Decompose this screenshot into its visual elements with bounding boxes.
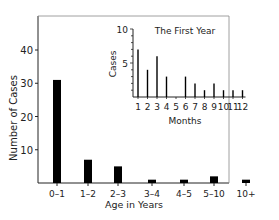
inset-y-tick-label: 10 [117,25,129,35]
main-bar [114,166,122,183]
main-x-tick-label: 3–4 [144,189,160,199]
main-x-tick-label: 1–2 [80,189,96,199]
inset-x-axis-label: Months [169,116,202,126]
chart-canvas: 102030400–11–22–33–44–55–1010+Age in Yea… [0,0,279,220]
inset-x-tick-label: 7 [192,102,198,112]
inset-x-tick-label: 8 [202,102,208,112]
inset-x-tick-label: 4 [164,102,170,112]
main-bar [180,180,188,183]
inset-x-tick-label: 2 [145,102,151,112]
inset-x-tick-label: 12 [237,102,248,112]
main-y-tick-label: 10 [20,145,33,156]
main-x-tick-label: 10+ [237,189,256,199]
inset-x-tick-label: 9 [211,102,217,112]
inset-x-tick-label: 5 [173,102,179,112]
main-y-tick-label: 20 [20,112,33,123]
inset-y-tick-label: 5 [122,59,128,69]
main-y-axis-label: Number of Cases [8,75,19,161]
inset-y-axis-label: Cases [108,50,118,77]
inset-x-tick-label: 6 [183,102,189,112]
main-bar [53,80,61,183]
inset-x-tick-label: 1 [135,102,141,112]
main-bar [148,180,156,183]
main-bar [210,176,218,183]
main-x-tick-label: 2–3 [110,189,126,199]
main-x-tick-label: 4–5 [176,189,192,199]
inset-x-tick-label: 3 [154,102,160,112]
main-y-tick-label: 30 [20,78,33,89]
main-x-tick-label: 0–1 [49,189,65,199]
main-bar [84,160,92,183]
main-x-axis-label: Age in Years [105,199,163,210]
inset-title: The First Year [154,26,216,36]
main-x-tick-label: 5–10 [203,189,225,199]
main-bar [242,180,250,183]
main-y-tick-label: 40 [20,45,33,56]
